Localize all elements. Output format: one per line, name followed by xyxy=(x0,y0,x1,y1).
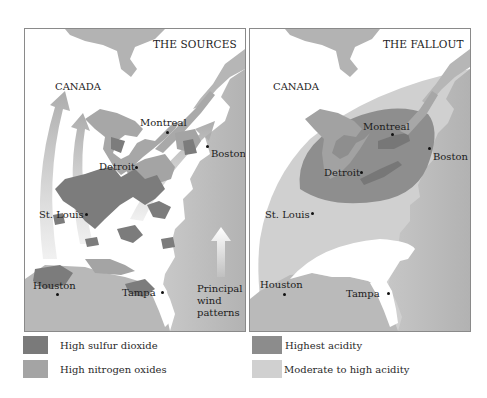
city-marker-st-louis xyxy=(85,213,88,216)
city-label-boston: Boston xyxy=(433,151,468,162)
region-label-canada: CANADA xyxy=(273,81,319,92)
city-label-tampa: Tampa xyxy=(122,287,156,298)
legend-label: High sulfur dioxide xyxy=(60,340,158,351)
wind-note-line: Principal xyxy=(197,283,243,295)
legend-swatch-nitrogen-oxides xyxy=(23,360,48,378)
legend-item-sulfur-dioxide: High sulfur dioxide xyxy=(23,336,158,354)
city-marker-houston xyxy=(56,293,59,296)
panel-title-fallout: THE FALLOUT xyxy=(383,39,464,50)
city-label-detroit: Detroit xyxy=(99,161,135,172)
legend-label: Highest acidity xyxy=(285,340,362,351)
city-label-detroit: Detroit xyxy=(324,167,360,178)
city-label-houston: Houston xyxy=(33,280,76,291)
city-label-st-louis: St. Louis xyxy=(265,209,310,220)
city-marker-tampa xyxy=(387,292,390,295)
city-marker-detroit xyxy=(360,171,363,174)
city-label-boston: Boston xyxy=(211,148,246,159)
city-marker-st-louis xyxy=(311,212,314,215)
map-panel-sources: THE SOURCES CANADA Montreal Detroit Bost… xyxy=(24,28,246,332)
city-marker-montreal xyxy=(166,131,169,134)
city-label-houston: Houston xyxy=(260,279,303,290)
legend-label: High nitrogen oxides xyxy=(60,364,167,375)
legend-item-moderate-acidity: Moderate to high acidity xyxy=(252,360,409,378)
wind-patterns-note: Principal wind patterns xyxy=(197,283,243,319)
panel-title-sources: THE SOURCES xyxy=(153,39,237,50)
region-label-canada: CANADA xyxy=(55,81,101,92)
legend-swatch-moderate-acidity xyxy=(252,360,282,378)
city-marker-detroit xyxy=(135,166,138,169)
city-marker-montreal xyxy=(391,133,394,136)
city-label-montreal: Montreal xyxy=(363,121,410,132)
wind-arc-west xyxy=(40,91,70,259)
city-marker-boston xyxy=(428,147,431,150)
wind-note-line: patterns xyxy=(197,307,243,319)
city-marker-tampa xyxy=(161,291,164,294)
legend-item-nitrogen-oxides: High nitrogen oxides xyxy=(23,360,167,378)
city-label-st-louis: St. Louis xyxy=(39,209,84,220)
city-marker-houston xyxy=(283,293,286,296)
city-marker-boston xyxy=(206,145,209,148)
hudson-bay xyxy=(65,29,165,77)
wind-note-line: wind xyxy=(197,295,243,307)
legend-swatch-sulfur-dioxide xyxy=(23,336,48,354)
legend-label: Moderate to high acidity xyxy=(284,364,409,375)
city-label-montreal: Montreal xyxy=(140,117,187,128)
legend-item-highest-acidity: Highest acidity xyxy=(252,336,362,354)
map-panel-fallout: THE FALLOUT CANADA Montreal Detroit Bost… xyxy=(249,28,471,332)
city-label-tampa: Tampa xyxy=(346,288,380,299)
legend-swatch-highest-acidity xyxy=(252,336,282,354)
